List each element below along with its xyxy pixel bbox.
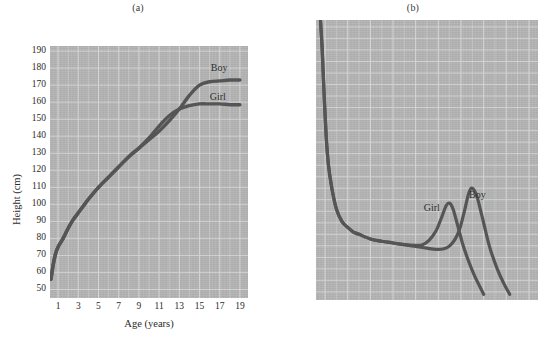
panel-a-x-axis-ticks: 135791113151719 [50, 301, 248, 315]
panel-a-curves [50, 46, 248, 298]
panel-b-plot-area: GirlBoy [316, 20, 538, 300]
y-tick-label: 140 [32, 131, 46, 141]
panel-a-title: (a) [28, 2, 248, 13]
y-tick-label: 60 [37, 267, 47, 277]
x-tick-label: 15 [190, 301, 210, 311]
y-tick-label: 150 [32, 114, 46, 124]
panel-a-x-axis-title: Age (years) [50, 318, 248, 329]
y-tick-label: 100 [32, 199, 46, 209]
panel-b-height-gain: (b) GirlBoy 1234567891011121314151617181… [272, 0, 544, 340]
curve-girl [321, 21, 484, 294]
y-tick-label: 120 [32, 165, 46, 175]
x-tick-label: 9 [129, 301, 149, 311]
y-tick-label: 180 [32, 63, 46, 73]
y-tick-label: 190 [32, 46, 46, 56]
y-tick-label: 160 [32, 97, 46, 107]
y-tick-label: 90 [37, 216, 47, 226]
series-label-boy: Boy [211, 62, 228, 73]
panel-b-curves [316, 20, 538, 300]
x-tick-label: 3 [68, 301, 88, 311]
x-tick-label: 17 [210, 301, 230, 311]
x-tick-label: 13 [169, 301, 189, 311]
growth-chart-figure: (a) BoyGirl 5060708090100110120130140150… [0, 0, 544, 340]
curve-boy [321, 21, 510, 294]
series-label-boy: Boy [469, 189, 486, 200]
x-tick-label: 11 [149, 301, 169, 311]
panel-b-title: (b) [302, 2, 524, 13]
panel-a-y-axis-title: Height (cm) [11, 174, 22, 225]
x-tick-label: 1 [48, 301, 68, 311]
curve-boy [51, 80, 240, 279]
x-tick-label: 5 [88, 301, 108, 311]
y-tick-label: 50 [37, 284, 47, 294]
panel-a-height: (a) BoyGirl 5060708090100110120130140150… [0, 0, 272, 340]
y-tick-label: 70 [37, 250, 47, 260]
curve-girl [51, 104, 240, 280]
panel-a-plot-area: BoyGirl [50, 46, 248, 298]
series-label-girl: Girl [210, 91, 226, 102]
panel-a-y-axis-ticks: 5060708090100110120130140150160170180190 [14, 46, 46, 298]
y-tick-label: 130 [32, 148, 46, 158]
x-tick-label: 19 [230, 301, 250, 311]
y-tick-label: 110 [32, 182, 46, 192]
x-tick-label: 7 [109, 301, 129, 311]
y-tick-label: 170 [32, 80, 46, 90]
series-label-girl: Girl [424, 202, 440, 213]
y-tick-label: 80 [37, 233, 47, 243]
